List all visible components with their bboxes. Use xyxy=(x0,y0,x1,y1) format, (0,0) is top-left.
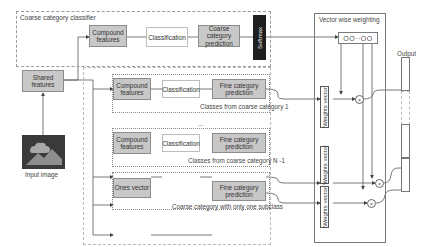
weights-vector-1: Weights vector xyxy=(320,86,329,128)
coarse-classification-box: Classification xyxy=(146,27,188,47)
branch-n-1-prediction: Fine category prediction xyxy=(212,133,266,153)
ellipsis: ... xyxy=(198,120,203,127)
input-image-label: Input image xyxy=(25,171,58,178)
branch-1-prediction: Fine category prediction xyxy=(212,79,266,99)
multiply-node-single: × xyxy=(367,199,376,208)
weights-vector-single: Weights vector xyxy=(320,186,329,228)
branch-1-classification: Classification xyxy=(162,80,200,98)
softmax-block: Softmax xyxy=(253,15,266,60)
coarse-classifier-title: Coarse category classifier xyxy=(20,14,96,21)
image-icon xyxy=(22,135,65,169)
weights-vector-n-1: Weights vector xyxy=(320,146,329,184)
coarse-prediction-box: Coarse category prediction xyxy=(198,25,240,47)
branch-n-1-caption: Classes from coarse category N -1 xyxy=(188,157,285,164)
output-label: Output xyxy=(397,50,416,57)
shared-features-box: Shared features xyxy=(22,70,64,92)
branch-1-compound-features: Compound features xyxy=(113,78,151,100)
branch-1-caption: Classes from coarse category 1 xyxy=(200,103,289,110)
branch-n-1-compound-features: Compound features xyxy=(113,132,151,154)
branch-single-prediction: Fine category prediction xyxy=(212,181,266,201)
coarse-compound-features-box: Compound features xyxy=(89,25,127,47)
ones-vector-box: Ones vector xyxy=(113,178,151,198)
coarse-probability-vector: OO··OO xyxy=(338,32,378,44)
input-image xyxy=(22,135,65,169)
vector-weighting-title: Vector wise weighting xyxy=(319,16,380,23)
softmax-label: Softmax xyxy=(257,26,263,48)
output-segment-gap xyxy=(401,91,410,125)
multiply-node-1: × xyxy=(355,95,364,104)
multiply-node-n-1: × xyxy=(375,179,384,188)
output-segment-1 xyxy=(401,57,410,91)
output-segment-3 xyxy=(401,158,410,192)
branch-n-1-classification: Classification xyxy=(162,134,200,152)
branch-single-caption: Coarse category with only one subclass xyxy=(172,203,283,210)
output-segment-2 xyxy=(401,124,410,158)
